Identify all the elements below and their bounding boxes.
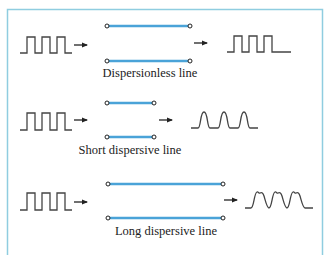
panel-short-dispersive: Short dispersive line [20, 101, 258, 157]
input-square-wave [20, 113, 72, 130]
output-rounded-pulses [191, 112, 258, 128]
input-square-wave [20, 37, 72, 53]
terminal-icon [221, 216, 225, 220]
terminal-icon [105, 24, 109, 28]
terminal-icon [105, 101, 109, 105]
dispersion-diagram: Dispersionless line Short dispersive lin… [0, 0, 330, 255]
input-square-wave [20, 193, 72, 210]
diagram-canvas: Dispersionless line Short dispersive lin… [0, 0, 330, 255]
terminal-icon [152, 135, 156, 139]
terminal-icon [152, 101, 156, 105]
panel-long-dispersive: Long dispersive line [20, 182, 313, 238]
terminal-icon [106, 216, 110, 220]
terminal-icon [106, 182, 110, 186]
panel-label: Long dispersive line [115, 224, 218, 238]
terminal-icon [105, 135, 109, 139]
output-square-wave [227, 36, 291, 52]
panel-label: Short dispersive line [79, 143, 182, 157]
panel-dispersionless: Dispersionless line [20, 24, 291, 80]
terminal-icon [221, 182, 225, 186]
output-distorted-pulses [245, 192, 313, 208]
terminal-icon [188, 24, 192, 28]
panel-label: Dispersionless line [103, 66, 198, 80]
terminal-icon [188, 59, 192, 63]
terminal-icon [105, 59, 109, 63]
